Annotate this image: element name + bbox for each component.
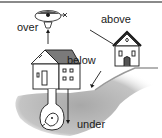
arrow-above xyxy=(90,30,113,44)
label-below: below xyxy=(67,55,96,66)
house-hill xyxy=(113,32,141,66)
label-under: under xyxy=(77,119,105,130)
hot-air-balloon xyxy=(35,11,67,29)
arrow-over xyxy=(46,29,50,44)
preposition-figure: over above below under xyxy=(0,0,162,138)
label-above: above xyxy=(101,14,131,25)
arrow-below xyxy=(90,71,101,88)
label-over: over xyxy=(17,22,38,33)
